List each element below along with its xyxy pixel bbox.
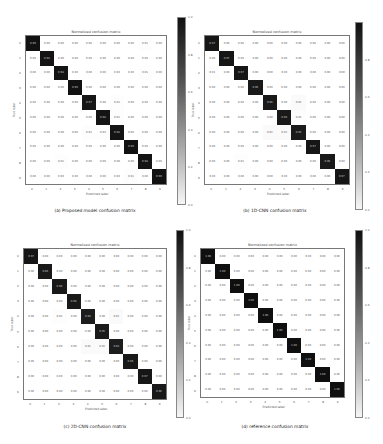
matrix-cell: 0.00 xyxy=(67,369,81,384)
y-tick-label: 0 xyxy=(19,41,21,45)
matrix-cell: 0.00 xyxy=(205,140,219,155)
matrix-cell: 0.02 xyxy=(263,125,277,140)
matrix-cell: 0.00 xyxy=(152,249,166,264)
matrix-cell: 0.00 xyxy=(219,66,233,81)
matrix-cell: 0.00 xyxy=(152,110,166,125)
matrix-cell: 0.00 xyxy=(26,169,40,184)
matrix-cell: 0.00 xyxy=(40,125,54,140)
matrix-cell: 1.00 xyxy=(330,382,344,397)
x-tick-label: 4 xyxy=(88,187,90,191)
matrix-cell: 0.00 xyxy=(110,140,124,155)
matrix-cell: 0.00 xyxy=(205,95,219,110)
matrix-cell: 0.00 xyxy=(152,324,166,339)
matrix-cell: 0.00 xyxy=(138,264,152,279)
matrix-cell: 0.00 xyxy=(82,140,96,155)
x-tick-label: 1 xyxy=(225,187,227,191)
matrix-cell: 0.00 xyxy=(152,369,166,384)
matrix-cell: 0.00 xyxy=(96,80,110,95)
x-tick-label: 3 xyxy=(74,187,76,191)
matrix-cell: 0.00 xyxy=(315,279,329,294)
colorbar-tick-label: 0.4 xyxy=(188,128,192,132)
matrix-cell: 0.01 xyxy=(110,95,124,110)
matrix-cell: 0.00 xyxy=(40,80,54,95)
matrix-cell: 0.00 xyxy=(277,154,291,169)
matrix-cell: 0.02 xyxy=(291,95,305,110)
x-tick-label: 6 xyxy=(298,187,300,191)
matrix-cell: 0.00 xyxy=(124,80,138,95)
colorbar-tick-label: 0.2 xyxy=(186,378,190,382)
matrix-cell: 0.00 xyxy=(215,279,229,294)
matrix-cell: 0.00 xyxy=(38,294,52,309)
matrix-cell: 0.00 xyxy=(248,51,262,66)
matrix-cell: 0.97 xyxy=(24,249,38,264)
matrix-cell: 0.00 xyxy=(81,279,95,294)
y-tick-label: 2 xyxy=(198,71,200,75)
matrix-cell: 0.00 xyxy=(306,125,320,140)
matrix-cell: 0.00 xyxy=(40,66,54,81)
matrix-cell: 0.00 xyxy=(205,169,219,184)
matrix-cell: 0.00 xyxy=(110,51,124,66)
matrix-cell: 0.00 xyxy=(258,382,272,397)
matrix-cell: 0.00 xyxy=(95,354,109,369)
matrix-cell: 0.98 xyxy=(110,125,124,140)
matrix-cell: 0.00 xyxy=(96,140,110,155)
matrix-cell: 0.00 xyxy=(152,51,166,66)
matrix-cell: 0.00 xyxy=(67,324,81,339)
matrix-cell: 0.99 xyxy=(26,36,40,51)
y-tick-label: 3 xyxy=(194,299,196,303)
matrix-cell: 0.00 xyxy=(306,66,320,81)
matrix-cell: 0.00 xyxy=(330,323,344,338)
matrix-cell: 0.00 xyxy=(24,384,38,399)
matrix-cell: 0.00 xyxy=(96,169,110,184)
matrix-cell: 0.00 xyxy=(244,279,258,294)
matrix-cell: 0.00 xyxy=(234,95,248,110)
matrix-cell: 0.00 xyxy=(248,66,262,81)
matrix-cell: 0.00 xyxy=(123,264,137,279)
matrix-cell: 0.00 xyxy=(273,353,287,368)
matrix-cell: 0.00 xyxy=(38,369,52,384)
matrix-cell: 0.00 xyxy=(95,369,109,384)
matrix-cell: 0.00 xyxy=(258,367,272,382)
matrix-grid: 0.990.000.000.000.000.000.000.000.010.00… xyxy=(26,36,166,184)
matrix-cell: 0.00 xyxy=(24,264,38,279)
matrix-axes: 0.970.000.000.000.000.000.000.000.000.00… xyxy=(23,248,167,400)
matrix-cell: 1.00 xyxy=(258,308,272,323)
y-tick-label: 7 xyxy=(17,360,19,364)
matrix-cell: 0.00 xyxy=(315,249,329,264)
matrix-cell: 0.02 xyxy=(109,309,123,324)
matrix-grid: 0.970.000.000.000.000.000.000.000.000.00… xyxy=(205,36,349,184)
x-tick-label: 7 xyxy=(313,187,315,191)
matrix-cell: 0.00 xyxy=(248,36,262,51)
matrix-cell: 0.00 xyxy=(24,339,38,354)
matrix-cell: 0.01 xyxy=(291,110,305,125)
matrix-cell: 0.00 xyxy=(263,66,277,81)
matrix-cell: 0.00 xyxy=(109,294,123,309)
y-tick-label: 6 xyxy=(19,131,21,135)
matrix-cell: 0.00 xyxy=(54,169,68,184)
matrix-cell: 0.00 xyxy=(320,51,334,66)
matrix-cell: 0.00 xyxy=(109,324,123,339)
matrix-cell: 0.00 xyxy=(109,384,123,399)
matrix-cell: 0.00 xyxy=(95,249,109,264)
matrix-grid: 0.970.000.000.000.000.000.000.000.000.00… xyxy=(24,249,166,399)
matrix-cell: 0.00 xyxy=(124,51,138,66)
plot-title: Normalized confusion matrix xyxy=(200,243,345,247)
matrix-cell: 0.00 xyxy=(301,264,315,279)
matrix-cell: 0.00 xyxy=(138,294,152,309)
matrix-cell: 0.00 xyxy=(138,354,152,369)
colorbar-tick-label: 0.6 xyxy=(365,303,369,307)
matrix-cell: 0.00 xyxy=(201,367,215,382)
matrix-cell: 0.00 xyxy=(234,125,248,140)
matrix-cell: 0.00 xyxy=(248,110,262,125)
matrix-cell: 0.00 xyxy=(95,279,109,294)
matrix-cell: 0.96 xyxy=(123,354,137,369)
x-tick-label: 7 xyxy=(130,402,132,406)
matrix-cell: 0.00 xyxy=(320,95,334,110)
matrix-cell: 0.00 xyxy=(52,384,66,399)
matrix-cell: 0.00 xyxy=(82,110,96,125)
matrix-cell: 0.00 xyxy=(215,293,229,308)
matrix-cell: 0.00 xyxy=(138,249,152,264)
matrix-cell: 0.00 xyxy=(315,264,329,279)
matrix-cell: 0.00 xyxy=(26,51,40,66)
matrix-cell: 0.00 xyxy=(52,324,66,339)
